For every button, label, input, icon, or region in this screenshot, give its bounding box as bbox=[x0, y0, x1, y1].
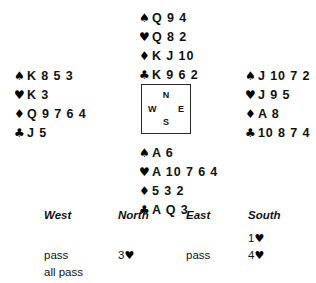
hand-south-spades: A 6 bbox=[152, 147, 174, 160]
heart-icon: ♥ bbox=[139, 31, 152, 43]
hand-west: ♠ K 8 5 3 ♥ K 3 ♦ Q 9 7 6 4 ♣ J 5 bbox=[14, 70, 87, 146]
hand-west-diamonds-row: ♦ Q 9 7 6 4 bbox=[14, 108, 87, 127]
spade-icon: ♠ bbox=[14, 70, 27, 82]
heart-icon: ♥ bbox=[14, 89, 27, 101]
hand-north-hearts-row: ♥ Q 8 2 bbox=[139, 31, 199, 50]
spade-icon: ♠ bbox=[139, 12, 152, 24]
hand-south-diamonds-row: ♦ 5 3 2 bbox=[139, 185, 218, 204]
bridge-hand-diagram: ♠ Q 9 4 ♥ Q 8 2 ♦ K J 10 ♣ K 9 6 2 ♠ K 8… bbox=[0, 0, 316, 205]
compass-box: N W E S bbox=[141, 84, 191, 134]
hand-west-clubs: J 5 bbox=[27, 127, 47, 140]
auction-bid-east bbox=[186, 266, 248, 283]
spade-icon: ♠ bbox=[245, 70, 258, 82]
hand-north-diamonds: K J 10 bbox=[152, 50, 194, 63]
auction-bid-north bbox=[118, 266, 186, 283]
hand-north: ♠ Q 9 4 ♥ Q 8 2 ♦ K J 10 ♣ K 9 6 2 bbox=[139, 12, 199, 88]
club-icon: ♣ bbox=[14, 127, 27, 139]
auction-bid-south bbox=[248, 266, 292, 283]
auction-row: pass 3♥ pass 4♥ bbox=[44, 249, 292, 266]
hand-east-hearts-row: ♥ J 9 5 bbox=[245, 89, 310, 108]
heart-icon: ♥ bbox=[124, 249, 134, 262]
auction-bid-north: 3♥ bbox=[118, 249, 186, 266]
hand-west-hearts: K 3 bbox=[27, 89, 49, 102]
diamond-icon: ♦ bbox=[14, 108, 27, 120]
auction-header-west: West bbox=[44, 205, 118, 232]
diamond-icon: ♦ bbox=[245, 108, 258, 120]
hand-east-spades: J 10 7 2 bbox=[258, 70, 310, 83]
heart-icon: ♥ bbox=[254, 232, 264, 245]
hand-east-spades-row: ♠ J 10 7 2 bbox=[245, 70, 310, 89]
club-icon: ♣ bbox=[245, 127, 258, 139]
auction-bid-south: 1♥ bbox=[248, 232, 292, 249]
hand-east-diamonds: A 8 bbox=[258, 108, 280, 121]
compass-label-north: N bbox=[163, 91, 170, 100]
compass-label-east: E bbox=[178, 105, 184, 114]
auction-header-south: South bbox=[248, 205, 292, 232]
hand-north-hearts: Q 8 2 bbox=[152, 31, 187, 44]
auction-header-east: East bbox=[186, 205, 248, 232]
hand-north-spades-row: ♠ Q 9 4 bbox=[139, 12, 199, 31]
hand-north-clubs: K 9 6 2 bbox=[152, 69, 199, 82]
auction-bid-east bbox=[186, 232, 248, 249]
hand-south-diamonds: 5 3 2 bbox=[152, 185, 184, 198]
hand-north-diamonds-row: ♦ K J 10 bbox=[139, 50, 199, 69]
auction-header-row: West North East South bbox=[44, 205, 292, 232]
auction-row: all pass bbox=[44, 266, 292, 283]
hand-south-hearts: A 10 7 6 4 bbox=[152, 166, 218, 179]
hand-west-clubs-row: ♣ J 5 bbox=[14, 127, 87, 146]
spade-icon: ♠ bbox=[139, 147, 152, 159]
hand-west-spades: K 8 5 3 bbox=[27, 70, 74, 83]
auction-bid-south: 4♥ bbox=[248, 249, 292, 266]
auction-bid-west: all pass bbox=[44, 266, 118, 283]
auction-bid-west bbox=[44, 232, 118, 249]
hand-east-clubs: 10 8 7 4 bbox=[258, 127, 310, 140]
hand-west-spades-row: ♠ K 8 5 3 bbox=[14, 70, 87, 89]
auction-bid-west: pass bbox=[44, 249, 118, 266]
hand-east-clubs-row: ♣ 10 8 7 4 bbox=[245, 127, 310, 146]
auction-bid-east: pass bbox=[186, 249, 248, 266]
diamond-icon: ♦ bbox=[139, 185, 152, 197]
hand-east: ♠ J 10 7 2 ♥ J 9 5 ♦ A 8 ♣ 10 8 7 4 bbox=[245, 70, 310, 146]
hand-east-diamonds-row: ♦ A 8 bbox=[245, 108, 310, 127]
auction-bid-north bbox=[118, 232, 186, 249]
hand-west-hearts-row: ♥ K 3 bbox=[14, 89, 87, 108]
auction-table: West North East South 1♥ pass 3♥ pass 4♥… bbox=[0, 205, 316, 283]
hand-west-diamonds: Q 9 7 6 4 bbox=[27, 108, 87, 121]
hand-north-spades: Q 9 4 bbox=[152, 12, 187, 25]
heart-icon: ♥ bbox=[245, 89, 258, 101]
compass-label-south: S bbox=[163, 118, 169, 127]
heart-icon: ♥ bbox=[139, 166, 152, 178]
club-icon: ♣ bbox=[139, 69, 152, 81]
hand-south-hearts-row: ♥ A 10 7 6 4 bbox=[139, 166, 218, 185]
hand-south-spades-row: ♠ A 6 bbox=[139, 147, 218, 166]
diamond-icon: ♦ bbox=[139, 50, 152, 62]
heart-icon: ♥ bbox=[254, 249, 264, 262]
hand-east-hearts: J 9 5 bbox=[258, 89, 290, 102]
compass-label-west: W bbox=[148, 105, 157, 114]
auction-header-north: North bbox=[118, 205, 186, 232]
auction-row: 1♥ bbox=[44, 232, 292, 249]
